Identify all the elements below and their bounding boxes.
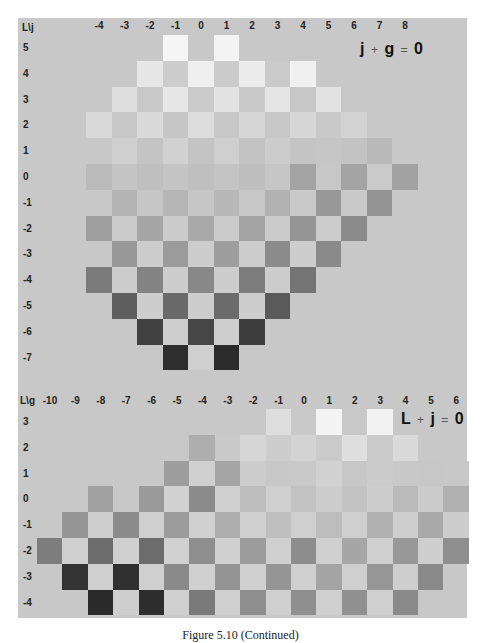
heatmap-cell [266,461,291,487]
heatmap-cell [418,512,443,538]
heatmap-cell [214,61,240,87]
heatmap-cell [137,61,163,87]
heatmap-cell [367,164,393,190]
heatmap-cell [240,590,265,616]
heatmap-cell [137,267,163,293]
heatmap-cell [290,267,316,293]
heatmap-cell [265,112,291,138]
corner-label: L\g [20,395,35,406]
heatmap-cell [393,564,418,590]
heatmap-cell [418,564,443,590]
heatmap-cell [443,486,468,512]
heatmap-cell [342,538,367,564]
heatmap-cell [188,138,214,164]
column-label: 3 [367,395,393,407]
heatmap-cell [164,564,189,590]
heatmap-cell [163,293,189,319]
row-label: -4 [23,274,45,286]
row-label: -3 [23,571,45,583]
heatmap-cell [215,486,240,512]
heatmap-cell [240,435,265,461]
heatmap-cell [240,486,265,512]
column-label: 8 [392,20,418,32]
heatmap-cell [393,461,418,487]
heatmap-cell [265,241,291,267]
heatmap-cell [62,564,87,590]
heatmap-cell [367,590,392,616]
heatmap-cell [367,409,392,435]
heatmap-cell [239,164,265,190]
heatmap-cell [189,435,214,461]
column-label: 0 [291,395,317,407]
heatmap-cell [265,293,291,319]
heatmap-cell [214,345,240,371]
heatmap-cell [341,216,367,242]
heatmap-cell [112,112,138,138]
heatmap-cell [239,293,265,319]
row-label: 2 [23,442,45,454]
heatmap-cell [188,112,214,138]
heatmap-cell [316,112,342,138]
heatmap-cell [290,216,316,242]
column-label: 1 [316,395,342,407]
equation-term: j [430,410,435,427]
heatmap-cell [88,590,113,616]
column-label: 3 [265,20,291,32]
heatmap-cell [214,319,240,345]
column-label: -3 [215,395,241,407]
heatmap-cell [214,267,240,293]
heatmap-cell [188,319,214,345]
heatmap-cell [189,538,214,564]
heatmap-cell [266,512,291,538]
column-label: -4 [86,20,112,32]
heatmap-cell [163,35,189,61]
heatmap-cell [112,164,138,190]
column-label: 2 [342,395,368,407]
heatmap-cell [163,164,189,190]
heatmap-cell [367,435,392,461]
heatmap-cell [239,112,265,138]
heatmap-cell [291,409,316,435]
heatmap-cell [316,486,341,512]
heatmap-cell [316,538,341,564]
heatmap-cell [239,267,265,293]
heatmap-cell [137,293,163,319]
heatmap-cell [265,267,291,293]
row-label: -5 [23,300,45,312]
corner-label: L\j [22,22,34,33]
column-label: -6 [139,395,165,407]
heatmap-cell [214,35,240,61]
equation-term: j [360,40,365,57]
heatmap-cell [265,216,291,242]
heatmap-cell [113,486,138,512]
equation-operator: + [417,413,425,427]
row-label: 0 [23,171,45,183]
heatmap-cell [137,241,163,267]
row-label: -2 [23,223,45,235]
heatmap-cell [367,461,392,487]
heatmap-cell [137,138,163,164]
column-label: -2 [240,395,266,407]
heatmap-cell [393,590,418,616]
heatmap-cell [188,190,214,216]
heatmap-cell [266,409,291,435]
heatmap-cell [342,564,367,590]
heatmap-cell [316,435,341,461]
heatmap-cell [88,538,113,564]
heatmap-cell [113,512,138,538]
heatmap-cell [290,190,316,216]
heatmap-cell [239,216,265,242]
column-label: 4 [393,395,419,407]
heatmap-cell [291,486,316,512]
heatmap-cell [393,512,418,538]
column-label: -4 [189,395,215,407]
row-label: 5 [23,42,45,54]
heatmap-cell [341,112,367,138]
heatmap-cell [443,461,468,487]
heatmap-cell [266,486,291,512]
heatmap-cell [367,486,392,512]
row-label: 1 [23,468,45,480]
heatmap-cell [113,590,138,616]
heatmap-cell [239,190,265,216]
row-label: 0 [23,493,45,505]
